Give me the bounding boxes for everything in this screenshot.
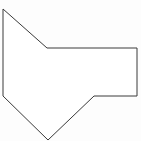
drawing-canvas [0,0,141,141]
polygon-figure [0,0,141,141]
irregular-heptagon-outline [3,9,137,140]
